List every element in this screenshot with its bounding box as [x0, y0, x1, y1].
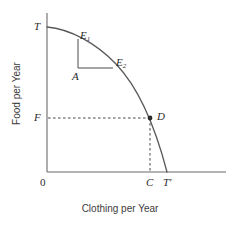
- label-point-A: A: [72, 70, 79, 82]
- y-axis-title: Food per Year: [11, 46, 22, 142]
- point-marker-D: [148, 116, 153, 121]
- label-point-E1-subscript: 1: [87, 35, 91, 43]
- label-point-E2-subscript: 2: [123, 62, 127, 70]
- label-point-E1-base: E: [80, 29, 87, 41]
- label-point-E2: E2: [116, 56, 126, 70]
- label-point-T: T: [34, 20, 40, 32]
- label-point-D: D: [157, 110, 165, 122]
- label-point-T-prime: T': [163, 176, 171, 188]
- label-axis-F: F: [34, 111, 41, 123]
- label-origin: 0: [40, 176, 46, 188]
- x-axis-title: Clothing per Year: [60, 203, 180, 214]
- label-point-E2-base: E: [116, 56, 123, 68]
- label-point-E1: E1: [80, 29, 90, 43]
- label-axis-C: C: [146, 176, 153, 188]
